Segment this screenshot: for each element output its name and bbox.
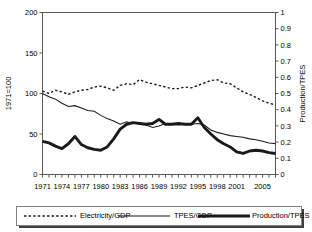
plot-area-frame (43, 13, 276, 175)
energy-indicators-line-chart: 0501001502001971=10000.10.20.30.40.50.60… (0, 0, 312, 232)
y2-axis-tick-label: 0.9 (281, 24, 291, 33)
legend-label-production-tpes: Production/TPES (252, 211, 310, 220)
y-axis-title: 1971=100 (4, 77, 13, 111)
y-axis-tick-label: 100 (25, 89, 38, 98)
y-axis-tick-label: 50 (29, 130, 37, 139)
y-axis-tick-label: 0 (33, 170, 37, 179)
x-axis-tick-label: 1974 (54, 182, 71, 191)
y2-axis-tick-label: 1 (281, 8, 285, 17)
y2-axis-tick-label: 0.7 (281, 57, 291, 66)
y2-axis-tick-label: 0.6 (281, 73, 291, 82)
y2-axis-tick-label: 0.3 (281, 122, 291, 131)
x-axis-tick-label: 1998 (209, 182, 226, 191)
x-axis-tick-label: 1983 (112, 182, 129, 191)
y2-axis-tick-label: 0.2 (281, 138, 291, 147)
y-axis-tick-label: 150 (25, 49, 38, 58)
x-axis-tick-label: 1986 (131, 182, 148, 191)
x-axis-tick-label: 1989 (151, 182, 168, 191)
y2-axis-tick-label: 0 (281, 170, 285, 179)
x-axis-tick-label: 1980 (92, 182, 109, 191)
x-axis-tick-label: 1995 (189, 182, 206, 191)
y2-axis-title: Production/TPES (298, 65, 307, 123)
x-axis-tick-label: 2005 (254, 182, 271, 191)
x-axis-tick-label: 1971 (34, 182, 51, 191)
y2-axis-tick-label: 0.4 (281, 105, 291, 114)
y2-axis-tick-label: 0.8 (281, 41, 291, 50)
x-axis-tick-label: 1992 (170, 182, 187, 191)
y2-axis-tick-label: 0.1 (281, 154, 291, 163)
y-axis-tick-label: 200 (25, 8, 38, 17)
x-axis-tick-label: 1977 (73, 182, 90, 191)
chart-container: 0501001502001971=10000.10.20.30.40.50.60… (0, 0, 312, 232)
y2-axis-tick-label: 0.5 (281, 89, 291, 98)
x-axis-tick-label: 2001 (228, 182, 245, 191)
